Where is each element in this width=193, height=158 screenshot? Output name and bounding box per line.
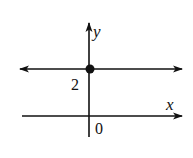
y-intercept-label: 2 — [71, 76, 79, 93]
point-0-2 — [86, 65, 95, 74]
origin-label: 0 — [95, 120, 103, 137]
x-axis-label: x — [165, 95, 174, 114]
coordinate-graph: y x 0 2 — [0, 0, 193, 158]
y-axis-label: y — [91, 22, 101, 41]
